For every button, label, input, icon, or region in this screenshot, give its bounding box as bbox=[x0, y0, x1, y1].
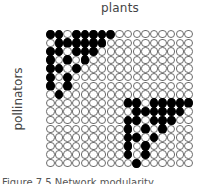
matrix-cell bbox=[72, 82, 81, 91]
matrix-cell bbox=[46, 107, 55, 116]
empty-circle-icon bbox=[176, 56, 184, 64]
empty-circle-icon bbox=[133, 56, 141, 64]
matrix-cell bbox=[89, 73, 98, 82]
empty-circle-icon bbox=[46, 133, 54, 141]
filled-circle-icon bbox=[158, 107, 167, 116]
empty-circle-icon bbox=[98, 82, 106, 90]
matrix-cell bbox=[124, 150, 133, 159]
empty-circle-icon bbox=[81, 99, 89, 107]
empty-circle-icon bbox=[89, 64, 97, 72]
filled-circle-icon bbox=[150, 116, 159, 125]
empty-circle-icon bbox=[167, 30, 175, 38]
empty-circle-icon bbox=[141, 99, 149, 107]
matrix-cell bbox=[150, 73, 159, 82]
matrix-cell bbox=[150, 133, 159, 142]
empty-circle-icon bbox=[46, 116, 54, 124]
matrix-cell bbox=[124, 82, 133, 91]
matrix-cell bbox=[132, 64, 141, 73]
empty-circle-icon bbox=[46, 107, 54, 115]
matrix-cell bbox=[106, 56, 115, 65]
filled-circle-icon bbox=[46, 81, 55, 90]
matrix-cell bbox=[63, 107, 72, 116]
empty-circle-icon bbox=[150, 47, 158, 55]
matrix-cell bbox=[184, 39, 193, 48]
matrix-cell bbox=[98, 47, 107, 56]
matrix-cell bbox=[141, 90, 150, 99]
matrix-cell bbox=[98, 142, 107, 151]
empty-circle-icon bbox=[150, 159, 158, 167]
matrix-cell bbox=[167, 39, 176, 48]
matrix-cell bbox=[81, 150, 90, 159]
empty-circle-icon bbox=[107, 64, 115, 72]
empty-circle-icon bbox=[115, 73, 123, 81]
matrix-cell bbox=[81, 90, 90, 99]
matrix-cell bbox=[141, 39, 150, 48]
matrix-cell bbox=[81, 107, 90, 116]
matrix-cell bbox=[89, 159, 98, 168]
empty-circle-icon bbox=[176, 116, 184, 124]
matrix-cell bbox=[124, 47, 133, 56]
matrix-cell bbox=[167, 47, 176, 56]
filled-circle-icon bbox=[132, 133, 141, 142]
matrix-cell bbox=[150, 39, 159, 48]
matrix-cell bbox=[184, 30, 193, 39]
empty-circle-icon bbox=[89, 107, 97, 115]
matrix-cell bbox=[72, 150, 81, 159]
empty-circle-icon bbox=[167, 64, 175, 72]
empty-circle-icon bbox=[81, 90, 89, 98]
matrix-cell bbox=[81, 39, 90, 48]
filled-circle-icon bbox=[55, 64, 64, 73]
empty-circle-icon bbox=[98, 159, 106, 167]
matrix-cell bbox=[115, 99, 124, 108]
empty-circle-icon bbox=[158, 159, 166, 167]
empty-circle-icon bbox=[141, 90, 149, 98]
matrix-cell bbox=[63, 39, 72, 48]
filled-circle-icon bbox=[141, 150, 150, 159]
empty-circle-icon bbox=[158, 133, 166, 141]
filled-circle-icon bbox=[55, 47, 64, 56]
matrix-cell bbox=[55, 133, 64, 142]
empty-circle-icon bbox=[176, 150, 184, 158]
matrix-cell bbox=[106, 30, 115, 39]
matrix-cell bbox=[176, 47, 185, 56]
empty-circle-icon bbox=[81, 159, 89, 167]
empty-circle-icon bbox=[55, 73, 63, 81]
filled-circle-icon bbox=[63, 38, 72, 47]
empty-circle-icon bbox=[150, 73, 158, 81]
matrix-cell bbox=[158, 125, 167, 134]
matrix-cell bbox=[106, 64, 115, 73]
empty-circle-icon bbox=[81, 64, 89, 72]
matrix-cell bbox=[150, 150, 159, 159]
matrix-cell bbox=[184, 133, 193, 142]
empty-circle-icon bbox=[63, 64, 71, 72]
empty-circle-icon bbox=[107, 82, 115, 90]
filled-circle-icon bbox=[150, 107, 159, 116]
empty-circle-icon bbox=[107, 125, 115, 133]
empty-circle-icon bbox=[133, 47, 141, 55]
matrix-cell bbox=[46, 82, 55, 91]
matrix-cell bbox=[124, 64, 133, 73]
matrix-cell bbox=[46, 99, 55, 108]
empty-circle-icon bbox=[63, 99, 71, 107]
empty-circle-icon bbox=[167, 82, 175, 90]
empty-circle-icon bbox=[98, 107, 106, 115]
empty-circle-icon bbox=[133, 39, 141, 47]
matrix-cell bbox=[98, 64, 107, 73]
filled-circle-icon bbox=[89, 47, 98, 56]
matrix-cell bbox=[176, 150, 185, 159]
filled-circle-icon bbox=[167, 107, 176, 116]
matrix-cell bbox=[89, 107, 98, 116]
matrix-cell bbox=[176, 159, 185, 168]
empty-circle-icon bbox=[176, 73, 184, 81]
empty-circle-icon bbox=[115, 82, 123, 90]
matrix-cell bbox=[115, 47, 124, 56]
matrix-cell bbox=[81, 116, 90, 125]
empty-circle-icon bbox=[72, 90, 80, 98]
matrix-cell bbox=[72, 90, 81, 99]
matrix-cell bbox=[115, 56, 124, 65]
empty-circle-icon bbox=[167, 150, 175, 158]
matrix-cell bbox=[124, 159, 133, 168]
matrix-cell bbox=[184, 107, 193, 116]
matrix-cell bbox=[115, 82, 124, 91]
empty-circle-icon bbox=[115, 56, 123, 64]
